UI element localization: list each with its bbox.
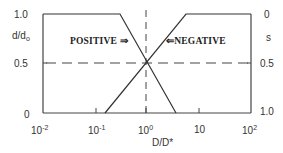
y-left-axis-label-main: d/d <box>12 30 26 41</box>
y-right-tick-label-0: 0 <box>264 10 270 20</box>
y-right-tick-label-05: 0.5 <box>260 59 274 69</box>
x-tick-label-1e-1: 10-1 <box>88 124 105 136</box>
y-right-axis-label: s <box>266 33 271 43</box>
y-right-tick-label-1: 1.0 <box>260 107 274 117</box>
y-left-tick-label-0: 0 <box>24 110 30 120</box>
y-left-axis-label-sub: o <box>26 35 30 42</box>
x-tick-label-1e-2: 10-2 <box>31 124 48 136</box>
negative-annotation: ⇐NEGATIVE <box>166 37 226 47</box>
y-left-tick-label-05: 0.5 <box>14 59 28 69</box>
x-tick-label-1e0: 100 <box>138 124 153 136</box>
y-left-axis-label: d/do <box>12 31 30 42</box>
x-tick-label-1e2: 102 <box>242 124 257 136</box>
y-left-tick-label-1: 1.0 <box>14 10 28 20</box>
x-tick-label-1e1: 10 <box>194 125 205 135</box>
x-axis-label: D/D* <box>152 138 173 148</box>
positive-annotation: POSITIVE ⇒ <box>70 37 128 47</box>
